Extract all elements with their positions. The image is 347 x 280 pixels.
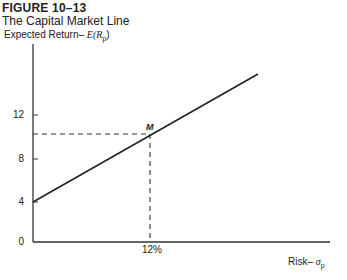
chart-plot bbox=[0, 0, 347, 280]
x-axis-label-text: Risk– bbox=[288, 256, 313, 267]
x-axis-label: Risk– σp bbox=[288, 256, 325, 269]
y-tick-label-8: 8 bbox=[8, 153, 24, 164]
y-tick-label-4: 4 bbox=[8, 196, 24, 207]
x-tick-label-12: 12% bbox=[142, 244, 162, 255]
market-portfolio-label: M bbox=[146, 122, 154, 132]
capital-market-line bbox=[33, 74, 258, 202]
y-tick-label-0: 0 bbox=[8, 236, 24, 247]
y-tick-label-12: 12 bbox=[8, 109, 24, 120]
x-axis-label-sub: p bbox=[321, 262, 325, 269]
